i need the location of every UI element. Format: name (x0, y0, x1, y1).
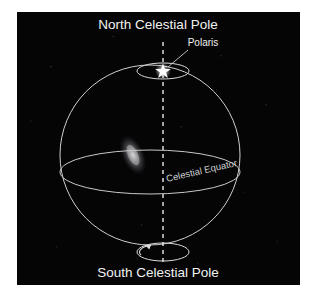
rotation-arrow-icon (139, 245, 151, 255)
diagram-page: North Celestial Pole Polaris Celestial E… (0, 0, 315, 297)
north-celestial-pole-label: North Celestial Pole (98, 17, 217, 32)
celestial-equator-label: Celestial Equator (165, 157, 238, 184)
celestial-sphere-diagram: North Celestial Pole Polaris Celestial E… (17, 12, 300, 285)
polaris-label: Polaris (188, 37, 219, 48)
sky-image-panel: North Celestial Pole Polaris Celestial E… (17, 12, 300, 285)
celestial-sphere-outline (60, 65, 240, 245)
galaxy-smudge-icon (114, 131, 151, 178)
south-celestial-pole-label: South Celestial Pole (97, 265, 219, 280)
